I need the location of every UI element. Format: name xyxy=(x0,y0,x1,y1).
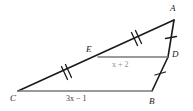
vertex-label-B: B xyxy=(149,97,155,106)
vertex-label-E: E xyxy=(86,45,92,54)
geometry-figure: A B C D E x + 2 3x − 1 xyxy=(0,0,193,111)
base-length-label: 3x − 1 xyxy=(66,95,87,103)
midsegment-length-label: x + 2 xyxy=(112,61,129,69)
segment-CA xyxy=(18,20,174,91)
triangle-diagram-svg xyxy=(0,0,193,111)
vertex-label-C: C xyxy=(10,94,16,103)
vertex-label-A: A xyxy=(170,4,176,13)
vertex-label-D: D xyxy=(172,50,179,59)
